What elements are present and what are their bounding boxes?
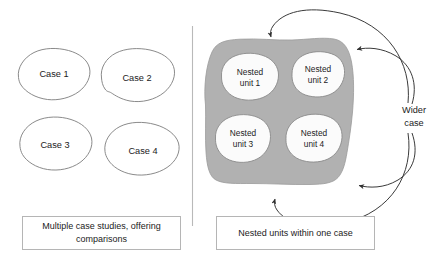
nested-unit-3-label-line2: unit 3 [233,139,254,149]
wider-case-label-line2: case [404,118,423,128]
left-caption: Multiple case studies, offering comparis… [23,217,181,250]
left-panel-cases: Case 1 Case 2 Case 3 Case 4 [18,48,179,175]
nested-unit-4: Nested unit 4 [286,114,342,162]
nested-unit-3: Nested unit 3 [215,115,270,163]
nested-unit-1-label-line1: Nested [237,67,264,77]
case-blob-3: Case 3 [20,117,92,170]
nested-unit-2: Nested unit 2 [292,52,345,97]
nested-unit-2-label-line2: unit 2 [308,75,329,85]
right-caption: Nested units within one case [217,217,375,250]
nested-unit-4-label-line2: unit 4 [304,139,325,149]
case-blob-2-label: Case 2 [122,73,151,83]
right-caption-label: Nested units within one case [238,228,353,238]
wider-case-arrow-upper-right [357,48,414,104]
wider-case-arrow-lower-right [359,133,415,187]
wider-case-label-line1: Wider [402,105,426,115]
nested-unit-1-label-line2: unit 1 [240,78,261,88]
case-blob-1-label: Case 1 [39,69,68,79]
nested-unit-1: Nested unit 1 [221,53,278,100]
case-blob-3-label: Case 3 [40,140,69,150]
case-blob-4: Case 4 [105,122,179,175]
left-caption-line2: comparisons [76,234,128,244]
nested-unit-3-label-line1: Nested [230,128,257,138]
case-study-diagram: Case 1 Case 2 Case 3 Case 4 [0,0,439,269]
nested-unit-2-label-line1: Nested [305,64,332,74]
right-panel-nested: Nested unit 1 Nested unit 2 Nested unit … [205,10,426,226]
case-blob-4-label: Case 4 [128,146,157,156]
nested-unit-4-label-line1: Nested [301,128,328,138]
wider-case-label: Wider case [402,105,426,128]
case-blob-2: Case 2 [101,49,174,102]
left-caption-line1: Multiple case studies, offering [42,221,160,231]
case-blob-1: Case 1 [18,48,90,99]
